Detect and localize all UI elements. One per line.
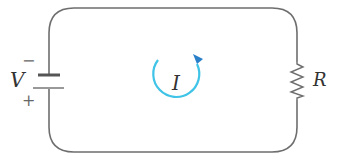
resistance-label: R (312, 69, 327, 90)
current-label: I (171, 71, 181, 95)
battery-positive-sign: + (22, 91, 35, 110)
resistor (291, 62, 303, 100)
battery (33, 75, 64, 88)
circuit-diagram: − + V R I (0, 0, 344, 160)
arrowhead-icon (193, 54, 203, 64)
voltage-label: V (10, 68, 27, 92)
